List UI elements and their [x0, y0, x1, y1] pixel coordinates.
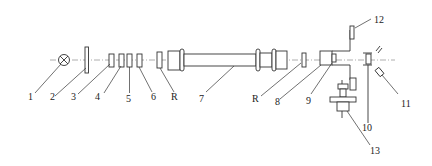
label-r-right: R	[252, 93, 259, 104]
bracket-12	[350, 26, 354, 39]
label-8: 8	[275, 96, 280, 107]
optical-setup-diagram: 1 2 3 4 5 6 R 7 R 8 9 10 11 12 13	[0, 0, 432, 166]
leader-lines	[35, 19, 398, 145]
label-4: 4	[95, 91, 100, 102]
label-10: 10	[362, 122, 372, 133]
element-5	[127, 54, 132, 67]
label-12: 12	[374, 14, 384, 25]
plate-2	[85, 47, 89, 73]
element-6	[137, 54, 142, 67]
label-1: 1	[28, 91, 33, 102]
label-3: 3	[71, 91, 76, 102]
label-6: 6	[151, 91, 156, 102]
side-block	[350, 78, 356, 90]
element-9	[332, 54, 336, 62]
housing-8	[320, 30, 350, 80]
label-13: 13	[370, 145, 380, 156]
label-5: 5	[126, 93, 131, 104]
element-3	[109, 54, 114, 67]
window-r-left	[157, 52, 162, 68]
holder-10	[363, 53, 372, 123]
label-9: 9	[306, 95, 311, 106]
label-11: 11	[401, 98, 411, 109]
tube-7	[168, 49, 287, 71]
detector-11	[375, 46, 384, 77]
label-2: 2	[50, 91, 55, 102]
label-r-left: R	[171, 91, 178, 102]
window-r-right	[302, 53, 306, 67]
label-7: 7	[199, 93, 204, 104]
element-4	[119, 54, 124, 67]
lamp-icon	[59, 55, 70, 66]
